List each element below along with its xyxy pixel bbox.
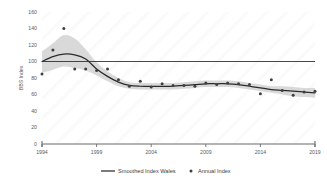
data-point xyxy=(84,67,87,70)
data-point xyxy=(292,94,295,97)
x-axis-tick-2019: 2019 xyxy=(309,149,321,155)
data-point xyxy=(303,91,306,94)
chart-container: 020406080100120140160 199419992004200920… xyxy=(0,0,327,185)
x-axis-tick-2004: 2004 xyxy=(145,149,157,155)
data-point xyxy=(95,69,98,72)
y-axis-tick-0: 0 xyxy=(34,141,37,147)
legend-label-smoothed-index-wales: Smoothed Index Wales xyxy=(118,168,176,174)
x-axis-tick-1994: 1994 xyxy=(36,149,48,155)
data-point xyxy=(41,72,44,75)
data-point xyxy=(150,86,153,89)
data-point xyxy=(226,81,229,84)
data-point xyxy=(182,84,185,87)
x-axis-tick-2009: 2009 xyxy=(200,149,212,155)
y-axis-tick-60: 60 xyxy=(31,91,37,97)
data-point xyxy=(161,82,164,85)
x-axis-tick-2014: 2014 xyxy=(255,149,267,155)
y-axis-tick-20: 20 xyxy=(31,124,37,130)
data-point xyxy=(193,85,196,88)
data-point xyxy=(270,78,273,81)
data-point xyxy=(51,48,54,51)
data-point xyxy=(281,89,284,92)
data-point xyxy=(314,90,317,93)
y-axis-tick-40: 40 xyxy=(31,108,37,114)
data-point xyxy=(215,83,218,86)
data-point xyxy=(139,80,142,83)
y-axis-tick-100: 100 xyxy=(28,58,37,64)
y-axis-tick-140: 140 xyxy=(28,25,37,31)
y-axis-tick-120: 120 xyxy=(28,42,37,48)
data-point xyxy=(172,84,175,87)
data-point xyxy=(248,83,251,86)
y-axis-tick-80: 80 xyxy=(31,75,37,81)
data-point xyxy=(117,78,120,81)
data-point xyxy=(62,27,65,30)
data-point xyxy=(106,67,109,70)
data-point xyxy=(237,82,240,85)
x-axis-tick-1999: 1999 xyxy=(91,149,103,155)
data-point xyxy=(128,85,131,88)
data-point xyxy=(259,92,262,95)
data-point xyxy=(204,81,207,84)
y-axis-title: BBS Index xyxy=(18,65,24,90)
plot-area-background xyxy=(42,12,315,144)
legend-label-annual-index: Annual Index xyxy=(198,168,231,174)
data-point xyxy=(73,67,76,70)
y-axis-tick-160: 160 xyxy=(28,9,37,15)
bbs-index-chart: 020406080100120140160 199419992004200920… xyxy=(0,0,327,185)
chart-legend: Smoothed Index Wales Annual Index xyxy=(101,168,231,174)
legend-dot-icon xyxy=(190,170,193,173)
